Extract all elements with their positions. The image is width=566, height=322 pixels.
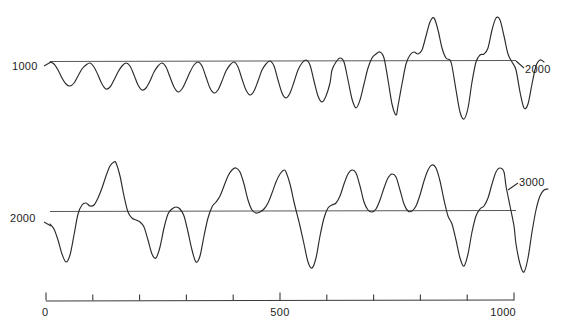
bottom-trace-group: 2000 3000 <box>10 161 548 272</box>
bottom-right-leader-line <box>508 183 518 190</box>
time-axis-label-0: 0 <box>42 306 48 318</box>
bottom-trace-right-label: 3000 <box>519 176 545 188</box>
oscillation-figure: 1000 2000 2000 3000 0 500 1000 <box>0 0 566 322</box>
top-left-leader-line <box>44 62 51 66</box>
top-trace-left-label: 1000 <box>12 60 38 72</box>
time-axis: 0 500 1000 <box>42 293 516 319</box>
top-right-leader-line <box>516 61 524 68</box>
time-axis-label-1000: 1000 <box>490 306 516 318</box>
time-axis-label-500: 500 <box>270 306 289 318</box>
top-trace-right-label: 2000 <box>525 63 551 75</box>
time-axis-ticks <box>46 293 514 301</box>
bottom-trace-left-label: 2000 <box>10 212 36 224</box>
top-trace-curve <box>50 17 544 119</box>
top-trace-group: 1000 2000 <box>12 17 551 119</box>
top-trace-baseline <box>50 61 516 62</box>
bottom-trace-curve <box>50 161 548 272</box>
